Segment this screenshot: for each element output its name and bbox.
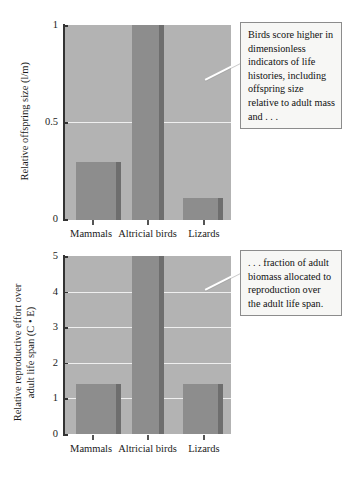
x-label-lizards-top: Lizards: [177, 228, 231, 240]
y-tick-label-1: 1: [53, 393, 58, 403]
y-tick-label-3: 3: [53, 322, 58, 332]
panel-reproductive-effort: Relative reproductive effort over adult …: [0, 240, 348, 480]
x-tickmark-mammals-top: [92, 220, 94, 225]
x-tickmark-lizards-top: [203, 220, 205, 225]
y-tickmark-1: [63, 398, 68, 400]
bar-lizards-bottom: [183, 384, 223, 434]
x-tickmark-altricial-bottom: [147, 435, 149, 440]
bar-mammals-bottom: [76, 384, 121, 434]
y-tickmark-0point5: [63, 122, 68, 124]
y-tickmark-0: [63, 434, 68, 436]
x-tickmark-lizards-bottom: [203, 435, 205, 440]
y-axis-title-bottom: Relative reproductive effort over adult …: [12, 253, 37, 453]
panel-offspring-size: Relative offspring size (l/m) 1 0.5 0 Ma…: [0, 0, 348, 240]
callout-reproductive-effort: . . . fraction of adult biomass allocate…: [240, 250, 342, 316]
x-tickmark-mammals-bottom: [92, 435, 94, 440]
y-axis-title-bottom-line1: Relative reproductive effort over: [12, 253, 25, 453]
y-tick-label-0point5: 0.5: [45, 117, 58, 127]
bar-mammals-top: [76, 162, 121, 220]
x-label-altricial-birds-top: Altricial birds: [118, 228, 177, 240]
y-tick-label-4: 4: [53, 287, 58, 297]
y-tickmark-4: [63, 292, 68, 294]
y-tick-label-2: 2: [53, 358, 58, 368]
y-axis-line-bottom: [63, 255, 65, 435]
x-label-mammals-bottom: Mammals: [64, 443, 118, 455]
x-label-altricial-birds-bottom: Altricial birds: [118, 443, 177, 455]
y-tick-label-0: 0: [53, 214, 58, 224]
y-tickmark-0: [63, 219, 68, 221]
y-tick-label-1: 1: [53, 20, 58, 30]
callout-offspring-size: Birds score higher in dimensionless indi…: [240, 22, 342, 129]
callout-reproductive-effort-text: . . . fraction of adult biomass allocate…: [248, 257, 331, 309]
two-panel-bar-figure: Relative offspring size (l/m) 1 0.5 0 Ma…: [0, 0, 348, 480]
plot-area-bottom: [64, 256, 231, 434]
y-tickmark-5: [63, 256, 68, 258]
y-tickmark-2: [63, 363, 68, 365]
bar-lizards-top: [183, 198, 223, 220]
bar-altricial-birds-top: [132, 25, 164, 220]
plot-area-top: [64, 25, 231, 220]
y-tick-label-5: 5: [53, 251, 58, 261]
x-tickmark-altricial-top: [147, 220, 149, 225]
callout-offspring-size-text: Birds score higher in dimensionless indi…: [248, 29, 335, 122]
x-label-mammals-top: Mammals: [64, 228, 118, 240]
y-tick-label-0: 0: [53, 429, 58, 439]
y-tickmark-3: [63, 327, 68, 329]
x-label-lizards-bottom: Lizards: [177, 443, 231, 455]
y-axis-title-bottom-line2: adult life span (C • E): [24, 253, 37, 453]
bar-altricial-birds-bottom: [132, 256, 164, 434]
y-axis-title-top: Relative offspring size (l/m): [19, 21, 32, 221]
y-tickmark-1: [63, 25, 68, 27]
